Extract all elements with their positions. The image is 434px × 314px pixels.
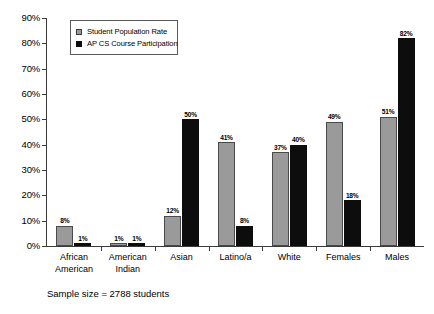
y-axis-tick-mark [42,18,46,19]
x-axis-tick-mark [101,247,102,251]
y-axis-tick-mark [42,195,46,196]
bar-value-label: 1% [70,235,95,242]
y-axis-tick-label: 90% [22,13,40,23]
y-axis-tick-mark [42,145,46,146]
y-axis-tick-mark [42,246,46,247]
black-square-swatch-icon [76,41,82,47]
y-axis-tick-label: 10% [22,216,40,226]
legend-item-label: Student Population Rate [87,27,167,36]
y-axis-tick-label: 30% [22,165,40,175]
bar-value-label: 1% [124,235,149,242]
x-axis-category-label: White [262,252,316,264]
x-axis-category-label: Males [370,252,424,264]
bar-ap-cs-course-participation [74,243,91,246]
bar-group: 51%82% [370,18,424,246]
y-axis-tick-mark [42,170,46,171]
y-axis-tick-mark [42,69,46,70]
y-axis-tick-label: 40% [22,140,40,150]
y-axis: 0%10%20%30%40%50%60%70%80%90% [0,18,46,246]
y-axis-tick-mark [42,94,46,95]
bar-student-population-rate [110,243,127,246]
x-axis-category-label: Asian [155,252,209,264]
x-axis-tick-mark [155,247,156,251]
bar-value-label: 40% [286,136,311,143]
x-axis-tick-mark [262,247,263,251]
bar-value-label: 82% [394,30,419,37]
y-axis-tick-label: 0% [27,241,40,251]
x-axis-line [46,246,424,247]
bar-value-label: 49% [322,113,347,120]
gray-square-swatch-icon [76,29,82,35]
bar-value-label: 8% [52,217,77,224]
bar-ap-cs-course-participation [182,119,199,246]
x-axis-tick-mark [370,247,371,251]
bar-group: 49%18% [316,18,370,246]
x-axis-tick-mark [209,247,210,251]
legend-item-label: AP CS Course Participation [87,39,178,48]
bar-ap-cs-course-participation [236,226,253,246]
x-axis-tick-mark [316,247,317,251]
bar-student-population-rate [164,216,181,246]
y-axis-tick-label: 80% [22,38,40,48]
bar-student-population-rate [326,122,343,246]
y-axis-tick-label: 50% [22,114,40,124]
sample-size-caption: Sample size = 2788 students [47,288,169,300]
x-axis-category-label: Females [316,252,370,264]
bar-ap-cs-course-participation [128,243,145,246]
x-axis-category-label: AmericanIndian [101,252,155,275]
bar-student-population-rate [218,142,235,246]
bar-value-label: 50% [178,111,203,118]
bar-group: 41%8% [209,18,263,246]
bar-value-label: 18% [340,192,365,199]
bar-group: 37%40% [262,18,316,246]
legend-item-ap-cs-course-participation: AP CS Course Participation [76,38,172,49]
bar-value-label: 8% [232,217,257,224]
y-axis-tick-mark [42,43,46,44]
y-axis-tick-label: 20% [22,190,40,200]
x-axis-category-label: Latino/a [209,252,263,264]
bar-ap-cs-course-participation [290,145,307,246]
bar-ap-cs-course-participation [344,200,361,246]
y-axis-tick-mark [42,221,46,222]
chart-legend: Student Population Rate AP CS Course Par… [70,20,178,55]
x-axis-category-label: AfricanAmerican [47,252,101,275]
bar-value-label: 41% [214,134,239,141]
legend-item-student-population-rate: Student Population Rate [76,26,172,37]
bar-student-population-rate [380,117,397,246]
bar-ap-cs-course-participation [398,38,415,246]
bar-chart: 0%10%20%30%40%50%60%70%80%90% 8%1%1%1%12… [0,0,434,314]
y-axis-tick-mark [42,119,46,120]
bar-student-population-rate [272,152,289,246]
y-axis-tick-label: 70% [22,64,40,74]
y-axis-tick-label: 60% [22,89,40,99]
